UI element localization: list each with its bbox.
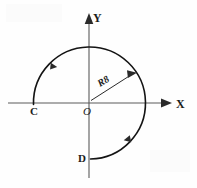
y-axis-arrowhead	[85, 13, 94, 24]
x-axis-label: X	[176, 97, 185, 111]
figure-container: X Y O C D R8	[0, 0, 197, 188]
radius-dimension-label: R8	[94, 73, 111, 89]
y-axis-label: Y	[93, 11, 102, 25]
arc-direction-arrowhead-lower	[124, 135, 132, 143]
x-axis-arrowhead	[161, 99, 172, 108]
point-label-c: C	[30, 105, 38, 117]
origin-label: O	[83, 105, 91, 117]
point-label-d: D	[78, 152, 86, 164]
arc-diagram: X Y O C D R8	[0, 0, 197, 188]
